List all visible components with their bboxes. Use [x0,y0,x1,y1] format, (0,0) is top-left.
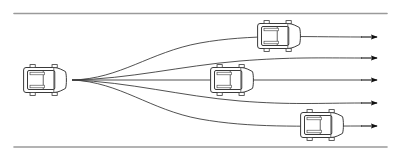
ego-vehicle[interactable]: ego vehicle [24,65,67,96]
target-vehicle-upper-wheel-bottom-1 [264,48,269,51]
target-vehicle-lower[interactable]: predicted position on trajectory 5 [301,110,344,141]
diagram-svg: lane change left (far)lane change left (… [0,0,402,156]
target-vehicle-upper-body-outline [258,24,301,49]
target-vehicle-lower-wheel-top-1 [307,110,312,113]
target-vehicle-upper-wheel-bottom-2 [286,48,291,51]
target-vehicle-middle-body-outline [211,68,254,93]
target-vehicle-middle-window-left-upper [217,72,232,75]
target-vehicle-middle-wheel-bottom-1 [217,92,222,95]
target-vehicle-lower-wheel-bottom-2 [329,137,334,140]
target-vehicle-lower-wheel-bottom-1 [307,137,312,140]
target-vehicle-lower-window-left-lower [307,130,322,133]
target-vehicle-lower-wheel-top-2 [329,110,334,113]
ego-vehicle-wheel-bottom-2 [52,92,57,95]
target-vehicle-middle-wheel-bottom-2 [239,92,244,95]
target-vehicle-lower-body-outline [301,113,344,138]
target-vehicle-middle[interactable]: predicted position on trajectory 3 [211,65,254,96]
target-vehicle-middle-window-left-lower [217,85,232,88]
ego-vehicle-wheel-top-2 [52,65,57,68]
target-vehicle-upper-wheel-top-2 [286,21,291,24]
target-vehicle-upper-window-left-upper [264,28,279,31]
ego-vehicle-body-outline [24,68,67,93]
ego-vehicle-window-left-upper [30,72,45,75]
target-vehicle-upper-wheel-top-1 [264,21,269,24]
target-vehicle-middle-wheel-top-2 [239,65,244,68]
target-vehicle-upper[interactable]: predicted position on trajectory 1 [258,21,301,52]
target-vehicle-upper-window-left-lower [264,41,279,44]
ego-vehicle-wheel-top-1 [30,65,35,68]
target-vehicle-middle-wheel-top-1 [217,65,222,68]
ego-vehicle-window-left-lower [30,85,45,88]
trajectory-diagram-canvas: lane change left (far)lane change left (… [0,0,402,156]
target-vehicle-lower-window-left-upper [307,117,322,120]
ego-vehicle-wheel-bottom-1 [30,92,35,95]
